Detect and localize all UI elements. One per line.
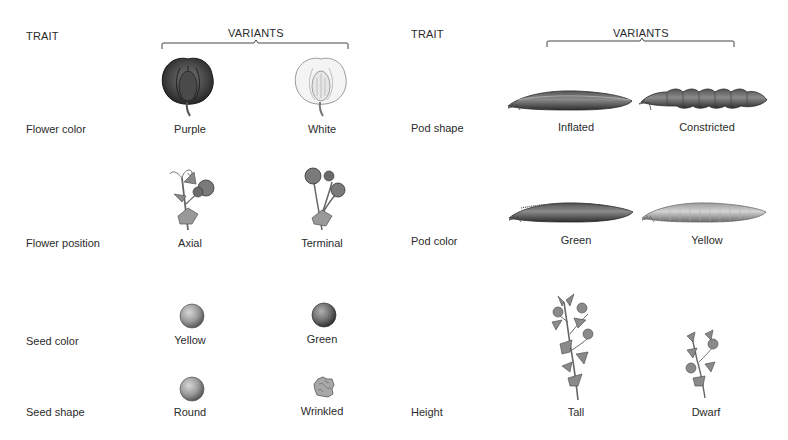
variant-white: White xyxy=(272,123,372,135)
variant-green-pod: Green xyxy=(526,234,626,246)
tall-plant-icon xyxy=(548,294,600,402)
variant-terminal: Terminal xyxy=(272,237,372,249)
right-trait-header: TRAIT xyxy=(411,28,444,40)
trait-flower-position: Flower position xyxy=(26,237,100,249)
inflated-pod-icon xyxy=(506,86,634,114)
right-variants-bracket xyxy=(546,38,738,50)
variant-yellow-pod: Yellow xyxy=(657,234,757,246)
trait-flower-color: Flower color xyxy=(26,123,86,135)
trait-pod-color: Pod color xyxy=(411,235,457,247)
axial-flower-stem-icon xyxy=(164,164,220,232)
purple-flower-icon xyxy=(160,56,216,118)
wrinkled-seed-icon xyxy=(313,376,335,398)
left-variants-bracket xyxy=(161,40,351,52)
dwarf-plant-icon xyxy=(683,330,723,400)
trait-height: Height xyxy=(411,406,443,418)
trait-pod-shape: Pod shape xyxy=(411,122,464,134)
trait-seed-shape: Seed shape xyxy=(26,406,85,418)
variant-tall: Tall xyxy=(526,406,626,418)
white-flower-icon xyxy=(293,56,349,118)
left-variants-header: VARIANTS xyxy=(228,27,284,39)
variant-dwarf: Dwarf xyxy=(656,406,756,418)
terminal-flower-stem-icon xyxy=(300,164,350,232)
constricted-pod-icon xyxy=(637,84,769,114)
variant-round: Round xyxy=(140,406,240,418)
variant-inflated: Inflated xyxy=(526,121,626,133)
yellow-seed-icon xyxy=(179,303,205,329)
yellow-pod-icon xyxy=(640,200,768,226)
variant-yellow-seed: Yellow xyxy=(140,334,240,346)
variant-constricted: Constricted xyxy=(657,121,757,133)
left-trait-header: TRAIT xyxy=(26,30,59,42)
green-pod-icon xyxy=(507,200,635,226)
green-seed-icon xyxy=(311,302,337,328)
variant-green-seed: Green xyxy=(272,333,372,345)
round-seed-icon xyxy=(179,376,205,402)
variant-wrinkled: Wrinkled xyxy=(272,405,372,417)
variant-axial: Axial xyxy=(140,237,240,249)
variant-purple: Purple xyxy=(140,123,240,135)
trait-seed-color: Seed color xyxy=(26,335,79,347)
